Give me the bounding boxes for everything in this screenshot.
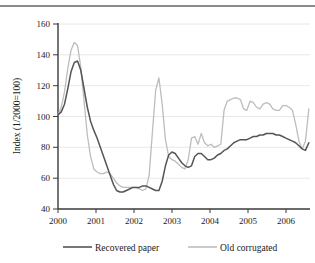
y-tick-label-60: 60 bbox=[41, 173, 51, 183]
y-tick-marks bbox=[53, 24, 58, 209]
figure-container: 160 140 120 100 80 60 40 2000 2001 2002 … bbox=[0, 0, 315, 263]
y-tick-label-120: 120 bbox=[37, 81, 51, 91]
series-line-recovered-paper bbox=[58, 61, 309, 192]
y-tick-label-80: 80 bbox=[41, 142, 51, 152]
x-tick-label-2004: 2004 bbox=[201, 216, 220, 226]
x-tick-label-2001: 2001 bbox=[87, 216, 105, 226]
x-tick-label-2003: 2003 bbox=[163, 216, 182, 226]
y-axis-title: Index (1/2000=100) bbox=[12, 78, 23, 154]
x-tick-label-2000: 2000 bbox=[49, 216, 68, 226]
legend: Recovered paper Old corrugated bbox=[63, 243, 277, 253]
legend-label-old-corrugated: Old corrugated bbox=[220, 243, 277, 253]
legend-label-recovered-paper: Recovered paper bbox=[95, 243, 160, 253]
y-tick-label-100: 100 bbox=[37, 112, 51, 122]
x-tick-label-2002: 2002 bbox=[125, 216, 143, 226]
x-tick-labels: 2000 2001 2002 2003 2004 2005 2006 bbox=[49, 216, 296, 226]
axes bbox=[58, 23, 310, 209]
x-tick-label-2006: 2006 bbox=[277, 216, 296, 226]
line-chart: 160 140 120 100 80 60 40 2000 2001 2002 … bbox=[0, 0, 315, 263]
series-group bbox=[58, 43, 309, 193]
y-tick-label-140: 140 bbox=[37, 50, 51, 60]
gridlines bbox=[58, 24, 310, 178]
y-tick-label-40: 40 bbox=[41, 204, 51, 214]
y-tick-label-160: 160 bbox=[37, 19, 51, 29]
x-tick-label-2005: 2005 bbox=[239, 216, 258, 226]
y-tick-labels: 160 140 120 100 80 60 40 bbox=[37, 19, 51, 214]
